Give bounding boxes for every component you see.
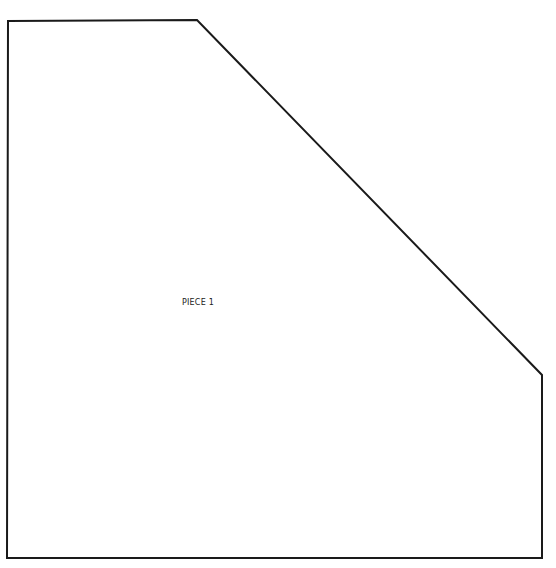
piece-label: PIECE 1 — [172, 298, 224, 307]
pattern-canvas — [0, 0, 556, 568]
piece-1-outline — [7, 20, 542, 558]
